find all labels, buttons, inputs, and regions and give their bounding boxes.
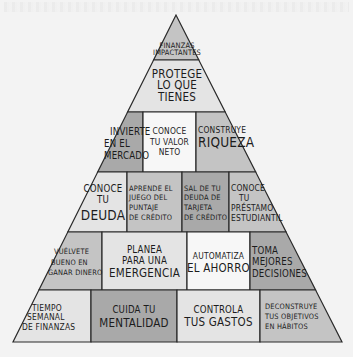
label-line: tu [231,193,250,203]
label-line: Construye [198,126,246,134]
label-line: deuda de [184,193,221,203]
label-line: neto [159,147,181,158]
label-line: de crédito [129,213,172,223]
label-line: ganar dinero [48,268,102,279]
label-line: emergencia [109,268,180,280]
label-line: Controla [194,305,244,315]
label-line: mejores [252,256,293,268]
label-line: tarjeta [184,203,212,213]
label-line: mentalidad [99,318,168,330]
label-finanzas-impactantes: Finanzas impactantes [148,38,206,60]
label-automatiza-ahorro: Automatiza el ahorro [187,240,250,286]
label-line: bueno en [48,258,88,269]
label-line: Automatiza [193,252,244,260]
label-vuelvete-bueno-ganar-dinero: Vuélvete bueno en ganar dinero [48,238,102,288]
label-controla-gastos: Controla tus gastos [177,294,260,340]
label-planea-emergencia: Planea para una emergencia [102,236,187,288]
label-tiempo-semanal-finanzas: Tiempo semanal de finanzas [22,295,90,341]
label-line: tu [97,195,109,205]
label-sal-de-deuda-tarjeta: Sal de tu deuda de tarjeta de crédito [184,177,229,229]
label-line: deuda [81,209,125,223]
label-line: tienes [158,92,196,104]
label-line: Deconstruye [265,302,317,312]
label-line: tus gastos [184,317,252,329]
label-conoce-tu-deuda: Conoce tu deuda [80,176,126,230]
label-line: decisiones [252,268,307,280]
label-deconstruye-objetivos: Deconstruye tus objetivos en hábitos [265,295,327,339]
label-construye-riqueza: Construye riqueza [198,118,250,158]
label-line: juego del [129,193,167,203]
label-conoce-prestamo-estudiantil: Conoce tu préstamo estudiantil [231,176,281,230]
label-line: impactantes [153,49,201,56]
label-line: el ahorro [187,263,250,275]
label-invierte-en-el-mercado: Invierte en el mercado [104,118,144,170]
label-line: Aprende el [129,184,173,194]
label-line: Conoce [231,183,265,193]
label-conoce-tu-valor-neto: Conoce tu valor neto [143,116,196,168]
label-line: Conoce [153,126,187,137]
label-line: tus objetivos [265,312,319,322]
label-line: Sal de tu [184,184,221,194]
label-line: Planea [127,245,162,255]
label-line: en el [104,138,130,150]
label-line: Conoce [84,184,123,194]
label-toma-mejores-decisiones: Toma mejores decisiones [252,236,310,288]
label-line: riqueza [198,136,254,150]
label-line: puntaje [129,203,158,213]
label-line: de crédito [184,213,227,223]
label-line: en hábitos [265,322,308,332]
label-aprende-puntaje-credito: Aprende el juego del puntaje de crédito [129,177,182,229]
label-line: Cuida tu [112,305,155,315]
label-cuida-mentalidad: Cuida tu mentalidad [91,294,177,340]
label-line: tu valor [150,137,189,148]
label-line: préstamo [231,203,273,213]
label-line: Vuélvete [48,247,89,258]
label-line: de finanzas [22,323,75,333]
label-line: para una [122,256,167,266]
label-line: estudiantil [231,213,283,223]
label-protege-lo-que-tienes: Protege lo que tienes [136,62,218,110]
label-line: Toma [252,245,278,257]
